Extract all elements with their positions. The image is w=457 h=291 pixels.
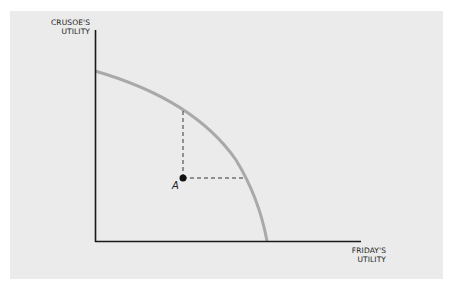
y-axis-label-line1: CRUSOE'S [10,18,90,27]
point-a-label: A [172,180,179,191]
chart-svg [0,0,457,291]
x-axis-label-line1: FRIDAY'S [300,246,386,255]
x-axis-label: FRIDAY'S UTILITY [300,246,386,264]
y-axis-label: CRUSOE'S UTILITY [10,18,90,36]
point-a [180,175,187,182]
x-axis-label-line2: UTILITY [300,255,386,264]
frontier-curve [95,71,267,241]
y-axis-label-line2: UTILITY [10,27,90,36]
